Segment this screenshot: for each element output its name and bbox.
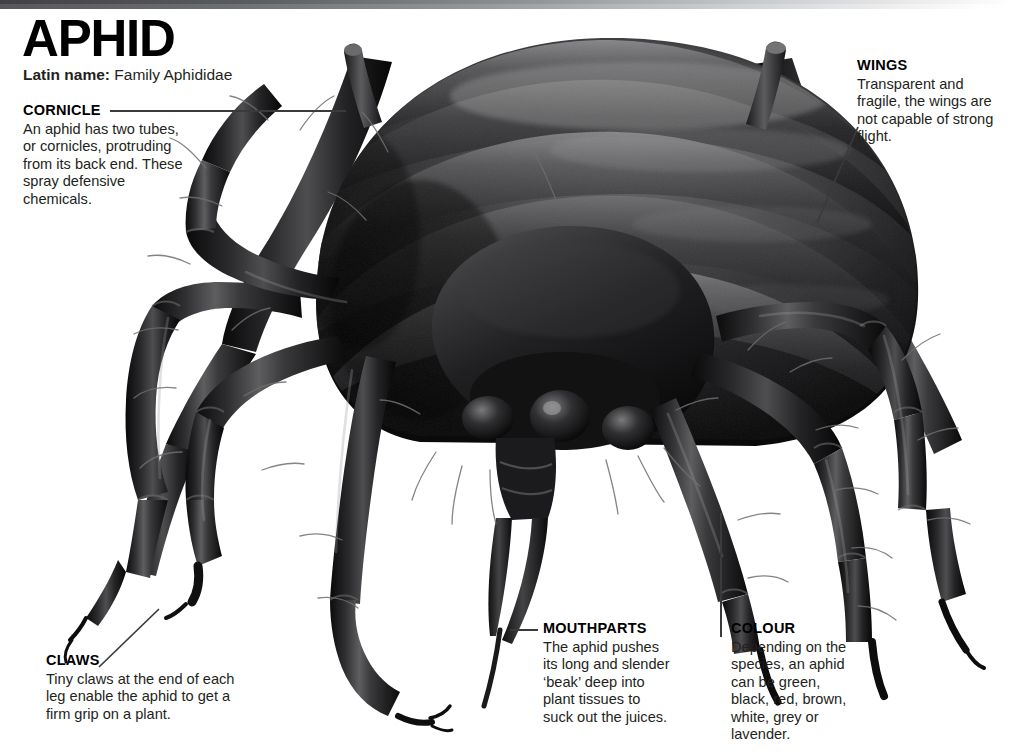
top-gradient-bar bbox=[0, 0, 1015, 9]
callout-colour-heading: COLOUR bbox=[731, 620, 856, 637]
latin-name-label: Latin name: bbox=[23, 66, 110, 83]
page-title: APHID bbox=[22, 14, 175, 64]
latin-name-line: Latin name: Family Aphididae bbox=[23, 66, 232, 84]
leader-line-mouthparts bbox=[510, 629, 538, 631]
top-gradient-bar-shade bbox=[0, 0, 1015, 4]
callout-cornicle-body: An aphid has two tubes, or cornicles, pr… bbox=[23, 121, 183, 208]
callout-cornicle: CORNICLE An aphid has two tubes, or corn… bbox=[23, 102, 353, 208]
callout-claws: CLAWS Tiny claws at the end of each leg … bbox=[46, 652, 256, 723]
callout-claws-heading: CLAWS bbox=[46, 652, 256, 669]
callout-mouthparts: MOUTHPARTS The aphid pushes its long and… bbox=[543, 620, 675, 726]
callout-cornicle-heading: CORNICLE bbox=[23, 102, 101, 119]
latin-name-value: Family Aphididae bbox=[114, 66, 232, 83]
callout-colour-body: Depending on the species, an aphid can b… bbox=[731, 639, 853, 743]
callout-wings-heading: WINGS bbox=[857, 57, 1009, 74]
leader-line-colour bbox=[720, 513, 722, 637]
callout-wings: WINGS Transparent and fragile, the wings… bbox=[857, 57, 1009, 146]
callout-claws-body: Tiny claws at the end of each leg enable… bbox=[46, 671, 251, 723]
callout-cornicle-header-row: CORNICLE bbox=[23, 102, 353, 119]
callout-mouthparts-heading: MOUTHPARTS bbox=[543, 620, 675, 637]
infographic-page: APHID Latin name: Family Aphididae CORNI… bbox=[0, 0, 1015, 755]
callout-colour: COLOUR Depending on the species, an aphi… bbox=[731, 620, 856, 743]
leader-line-cornicle bbox=[110, 110, 346, 112]
callout-wings-body: Transparent and fragile, the wings are n… bbox=[857, 76, 1009, 146]
callout-mouthparts-body: The aphid pushes its long and slender ‘b… bbox=[543, 639, 671, 726]
